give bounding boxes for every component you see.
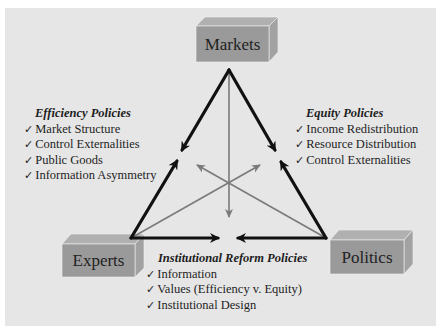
politics-label: Politics <box>330 249 404 266</box>
list-item: ✓Public Goods <box>24 153 156 169</box>
institutional-title: Institutional Reform Policies <box>146 251 307 267</box>
list-item: ✓Income Redistribution <box>295 122 418 138</box>
check-icon: ✓ <box>24 123 33 136</box>
list-item: ✓Control Externalities <box>295 153 418 169</box>
list-item: ✓Values (Efficiency v. Equity) <box>146 282 307 298</box>
list-item: ✓Institutional Design <box>146 298 307 314</box>
list-item: ✓Control Externalities <box>24 137 156 153</box>
markets-label: Markets <box>196 36 269 53</box>
efficiency-title: Efficiency Policies <box>24 106 156 122</box>
check-icon: ✓ <box>295 123 304 136</box>
check-icon: ✓ <box>146 299 155 312</box>
check-icon: ✓ <box>295 138 304 151</box>
check-icon: ✓ <box>295 154 304 167</box>
institutional-policies: Institutional Reform Policies ✓Informati… <box>146 251 307 313</box>
list-item: ✓Information Asymmetry <box>24 168 156 184</box>
list-item: ✓Resource Distribution <box>295 137 418 153</box>
check-icon: ✓ <box>24 169 33 182</box>
list-item: ✓Information <box>146 267 307 283</box>
experts-label: Experts <box>62 252 135 269</box>
check-icon: ✓ <box>24 154 33 167</box>
efficiency-policies: Efficiency Policies ✓Market Structure ✓C… <box>24 106 156 184</box>
check-icon: ✓ <box>24 138 33 151</box>
equity-title: Equity Policies <box>295 106 418 122</box>
equity-policies: Equity Policies ✓Income Redistribution ✓… <box>295 106 418 168</box>
list-item: ✓Market Structure <box>24 122 156 138</box>
check-icon: ✓ <box>146 283 155 296</box>
check-icon: ✓ <box>146 268 155 281</box>
